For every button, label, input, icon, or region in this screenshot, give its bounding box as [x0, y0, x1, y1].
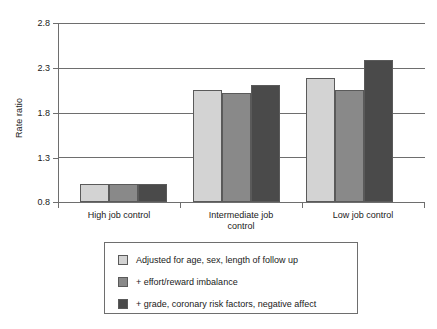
y-tick-label-2-8: 2.8 [20, 19, 50, 28]
bar-chart-figure: Rate ratio 2.8 2.3 1.8 1.3 0.8 High [0, 0, 437, 329]
x-label-intermediate-line1: Intermediate job [180, 210, 302, 221]
bar-low-series2 [335, 90, 364, 202]
legend-item-2: + grade, coronary risk factors, negative… [118, 297, 316, 311]
legend-swatch-icon-1 [118, 277, 128, 287]
bar-high-series2 [109, 184, 138, 202]
y-tick-label-2-3: 2.3 [20, 64, 50, 73]
legend-swatch-icon-2 [118, 299, 128, 309]
legend: Adjusted for age, sex, length of follow … [104, 242, 358, 314]
legend-label-2: + grade, coronary risk factors, negative… [136, 299, 316, 310]
y-tick-label-1-8: 1.8 [20, 109, 50, 118]
legend-item-0: Adjusted for age, sex, length of follow … [118, 253, 298, 267]
x-label-high: High job control [58, 210, 180, 221]
bar-intermediate-series3 [251, 85, 280, 202]
x-label-intermediate: Intermediate job control [180, 210, 302, 232]
x-tick-0 [58, 203, 59, 208]
x-tick-2 [302, 203, 303, 208]
x-label-low: Low job control [302, 210, 424, 221]
y-tick-label-0-8: 0.8 [20, 198, 50, 207]
bar-high-series3 [138, 184, 167, 202]
gridline-2-8 [58, 23, 425, 24]
x-label-high-line1: High job control [58, 210, 180, 221]
bar-low-series1 [306, 78, 335, 202]
legend-label-0: Adjusted for age, sex, length of follow … [136, 255, 298, 266]
bar-low-series3 [364, 60, 393, 202]
legend-swatch-icon-0 [118, 255, 128, 265]
y-axis-title: Rate ratio [12, 78, 26, 158]
y-tick-label-1-3: 1.3 [20, 154, 50, 163]
x-label-low-line1: Low job control [302, 210, 424, 221]
x-tick-1 [180, 203, 181, 208]
x-tick-3 [424, 203, 425, 208]
plot-area [58, 23, 425, 202]
bar-intermediate-series1 [193, 90, 222, 202]
bar-intermediate-series2 [222, 93, 251, 202]
bar-high-series1 [80, 184, 109, 202]
x-label-intermediate-line2: control [180, 221, 302, 232]
gridline-0-8 [58, 202, 425, 203]
legend-item-1: + effort/reward imbalance [118, 275, 238, 289]
legend-label-1: + effort/reward imbalance [136, 277, 238, 288]
